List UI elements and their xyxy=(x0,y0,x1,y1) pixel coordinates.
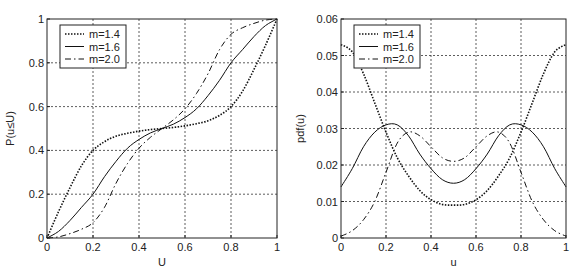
series-m-1-6 xyxy=(341,124,566,187)
y-tick-label: 0.06 xyxy=(317,13,338,25)
legend-entry: m=1.4 xyxy=(89,28,120,40)
y-tick-label: 0.02 xyxy=(317,159,338,171)
y-tick-label: 0.4 xyxy=(29,144,44,156)
x-tick-label: 0.2 xyxy=(378,241,393,253)
y-tick-label: 0.6 xyxy=(29,101,44,113)
y-tick-label: 0.8 xyxy=(29,57,44,69)
x-tick-label: 0.4 xyxy=(423,241,438,253)
pdf-plot: 00.20.40.60.8100.010.020.030.040.050.06u… xyxy=(294,13,569,268)
y-tick-label: 0.01 xyxy=(317,196,338,208)
legend-entry: m=2.0 xyxy=(89,53,120,65)
legend-entry: m=1.4 xyxy=(383,28,414,40)
y-tick-label: 0.03 xyxy=(317,123,338,135)
y-tick-label: 1 xyxy=(38,13,44,25)
cdf-plot: 00.20.40.60.8100.20.40.60.81UP(u≤U)m=1.4… xyxy=(4,13,280,268)
figure-canvas: 00.20.40.60.8100.20.40.60.81UP(u≤U)m=1.4… xyxy=(0,0,584,273)
y-tick-label: 0 xyxy=(38,232,44,244)
x-tick-label: 0.6 xyxy=(177,241,192,253)
y-tick-label: 0 xyxy=(332,232,338,244)
x-tick-label: 0 xyxy=(338,241,344,253)
x-tick-label: 1 xyxy=(563,241,569,253)
x-tick-label: 0.6 xyxy=(468,241,483,253)
x-tick-label: 0.4 xyxy=(131,241,146,253)
legend-entry: m=1.6 xyxy=(89,41,120,53)
series-m-1-4 xyxy=(341,45,566,206)
legend-entry: m=1.6 xyxy=(383,41,414,53)
x-axis-label: u xyxy=(450,256,456,268)
x-tick-label: 0.2 xyxy=(85,241,100,253)
y-tick-label: 0.05 xyxy=(317,50,338,62)
y-tick-label: 0.04 xyxy=(317,86,338,98)
x-axis-label: U xyxy=(158,256,166,268)
x-tick-label: 0.8 xyxy=(513,241,528,253)
series-lines xyxy=(341,45,566,237)
x-tick-label: 0.8 xyxy=(223,241,238,253)
legend-entry: m=2.0 xyxy=(383,53,414,65)
series-m-2-0 xyxy=(341,132,566,236)
x-tick-label: 0 xyxy=(44,241,50,253)
y-tick-label: 0.2 xyxy=(29,188,44,200)
x-tick-label: 1 xyxy=(274,241,280,253)
legend: m=1.4m=1.6m=2.0 xyxy=(354,25,420,68)
y-axis-label: pdf(u) xyxy=(294,114,306,143)
y-axis-label: P(u≤U) xyxy=(4,111,16,146)
legend: m=1.4m=1.6m=2.0 xyxy=(60,25,126,68)
